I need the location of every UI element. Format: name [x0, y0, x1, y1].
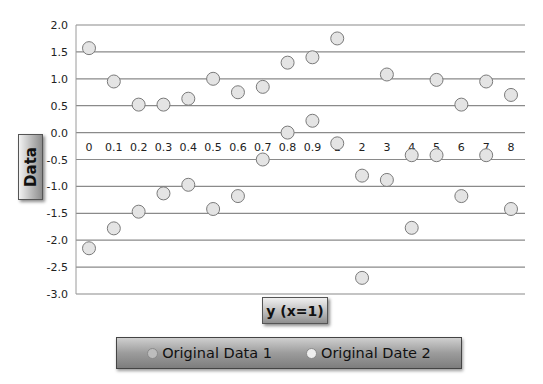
legend-item-series-2: Original Date 2 [306, 345, 431, 361]
y-tick-label: -1.0 [47, 180, 68, 193]
data-point-series-2 [306, 114, 319, 127]
data-point-series-2 [157, 187, 170, 200]
data-point-series-2 [132, 205, 145, 218]
legend-label: Original Data 1 [162, 345, 272, 361]
scatter-chart: 2.01.51.00.50.0-0.5-1.0-1.5-2.0-2.5-3.0 … [0, 0, 543, 384]
x-tick-label: 8 [508, 141, 515, 154]
data-point-series-2 [231, 190, 244, 203]
y-tick-label: 1.0 [51, 73, 69, 86]
x-tick-label: 0.9 [304, 141, 322, 154]
data-point-series-1 [281, 56, 294, 69]
data-point-series-2 [256, 153, 269, 166]
y-tick-label: 0.5 [51, 100, 69, 113]
data-point-series-2 [430, 149, 443, 162]
data-point-series-1 [256, 80, 269, 93]
data-point-series-1 [107, 75, 120, 88]
data-point-series-1 [505, 88, 518, 101]
data-point-series-1 [480, 75, 493, 88]
data-point-series-1 [306, 51, 319, 64]
x-tick-label: 0.2 [130, 141, 148, 154]
y-tick-label: 1.5 [51, 46, 69, 59]
data-point-series-1 [380, 68, 393, 81]
x-axis-title-box: y (x=1) [262, 297, 328, 324]
x-tick-label: 3 [383, 141, 390, 154]
data-point-series-2 [380, 173, 393, 186]
x-tick-label: 0 [86, 141, 93, 154]
data-point-series-1 [182, 92, 195, 105]
legend-item-series-1: Original Data 1 [147, 345, 272, 361]
x-tick-label: 2 [359, 141, 366, 154]
data-point-series-2 [356, 271, 369, 284]
circle-marker-icon [306, 348, 317, 359]
y-tick-label: 0.0 [51, 127, 69, 140]
x-axis-title: y (x=1) [266, 303, 323, 319]
gridlines [76, 25, 525, 294]
data-point-series-2 [83, 242, 96, 255]
x-axis-ticks: 00.10.20.30.40.50.60.70.80.912345678 [86, 141, 515, 154]
data-point-series-2 [281, 126, 294, 139]
y-axis-ticks: 2.01.51.00.50.0-0.5-1.0-1.5-2.0-2.5-3.0 [47, 19, 68, 301]
y-axis-title-box: Data [18, 134, 43, 200]
y-tick-label: -2.5 [47, 261, 68, 274]
data-point-series-2 [107, 222, 120, 235]
legend: Original Data 1 Original Date 2 [116, 337, 462, 369]
legend-label: Original Date 2 [321, 345, 431, 361]
data-point-series-1 [132, 98, 145, 111]
data-point-series-2 [505, 202, 518, 215]
data-point-series-1 [231, 86, 244, 99]
x-tick-label: 0.7 [254, 141, 272, 154]
x-tick-label: 0.1 [105, 141, 123, 154]
data-point-series-1 [331, 32, 344, 45]
data-point-series-1 [455, 98, 468, 111]
y-tick-label: -2.0 [47, 234, 68, 247]
data-points [83, 32, 518, 284]
data-point-series-2 [182, 178, 195, 191]
data-point-series-2 [405, 221, 418, 234]
data-point-series-1 [207, 72, 220, 85]
data-point-series-1 [157, 98, 170, 111]
data-point-series-1 [405, 149, 418, 162]
data-point-series-1 [83, 42, 96, 55]
data-point-series-2 [455, 190, 468, 203]
y-tick-label: -3.0 [47, 288, 68, 301]
y-tick-label: -1.5 [47, 207, 68, 220]
data-point-series-2 [331, 137, 344, 150]
x-tick-label: 0.6 [229, 141, 247, 154]
x-tick-label: 0.4 [180, 141, 198, 154]
y-axis-title: Data [22, 147, 40, 187]
data-point-series-2 [480, 149, 493, 162]
x-tick-label: 6 [458, 141, 465, 154]
y-tick-label: -0.5 [47, 154, 68, 167]
y-tick-label: 2.0 [51, 19, 69, 32]
circle-marker-icon [147, 348, 158, 359]
data-point-series-1 [356, 169, 369, 182]
x-tick-label: 0.8 [279, 141, 297, 154]
data-point-series-1 [430, 73, 443, 86]
x-tick-label: 0.3 [155, 141, 173, 154]
data-point-series-2 [207, 202, 220, 215]
x-tick-label: 0.5 [204, 141, 222, 154]
